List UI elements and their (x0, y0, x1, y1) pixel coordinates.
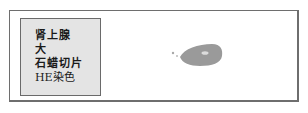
microscope-slide: 肾上腺 大 石蜡切片 HE染色 (9, 10, 299, 102)
slide-label: 肾上腺 大 石蜡切片 HE染色 (20, 18, 101, 96)
label-line-stain: HE染色 (35, 71, 83, 85)
label-line-section-type: 石蜡切片 (35, 57, 83, 71)
label-line-organ: 肾上腺 (35, 29, 83, 43)
slide-label-text: 肾上腺 大 石蜡切片 HE染色 (35, 29, 83, 85)
label-line-size: 大 (35, 43, 83, 57)
